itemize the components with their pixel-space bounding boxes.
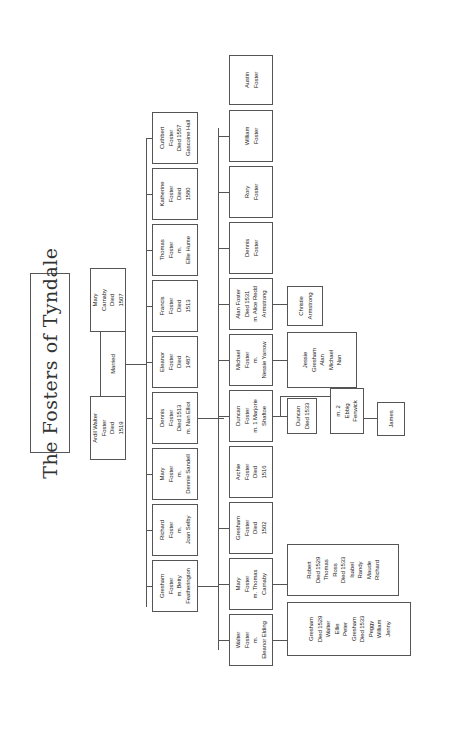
person-line: Foster [251, 239, 260, 257]
connector-line [198, 586, 218, 587]
person-line: Maude [364, 557, 373, 583]
connector-line [273, 360, 287, 361]
person-box-great-grandchild: m. 2 Ebbig Fenwick [330, 388, 364, 434]
person-line: Foster [251, 184, 260, 200]
person-line: Nessie Yarrow [260, 341, 269, 378]
person-line: Michael [326, 348, 335, 372]
person-box-great-grandchild: Duncan Died 1533 [287, 398, 317, 434]
person-box-child: Mary Foster m. Dennie Sandell [152, 448, 198, 500]
person-line: Carnaby [100, 289, 109, 311]
person-line: Foster [100, 413, 109, 443]
person-line: Jessie [301, 348, 310, 372]
connector-line [126, 364, 146, 365]
person-line: Mary [91, 289, 100, 311]
person-line: Foster [243, 621, 252, 659]
person-box-child: Cuthbert Foster Died 1557 Gascoine Hall [152, 112, 198, 164]
person-line: Eleanor Elding [260, 621, 269, 659]
person-line: Foster [243, 399, 252, 433]
person-line: Archie [234, 464, 243, 480]
person-box-grandchild: Mary Foster m. Thomas Carnaby [229, 558, 273, 610]
person-line: Dennie Sandell [184, 454, 193, 493]
person-box-great-grandchild: Jessie Gresham Alan Michael Nan [287, 332, 357, 388]
connector-line [280, 396, 330, 397]
person-line: Joan Selby [184, 516, 193, 545]
person-box-child: Gresham Foster m. Betty Featherington [152, 560, 198, 612]
person-line: m. Betty [175, 568, 184, 604]
person-line: Foster [167, 297, 176, 316]
person-line: Foster [167, 402, 176, 435]
person-line: Died [175, 297, 184, 316]
person-line: m. [251, 621, 260, 659]
person-line: Foster [167, 120, 176, 156]
person-line: Thomas [322, 557, 331, 583]
married-label: Married [109, 354, 118, 374]
connector-line [218, 136, 229, 137]
person-line: m. Thomas [251, 570, 260, 599]
person-box-grandchild: Dennis Foster [229, 222, 273, 274]
person-line: Foster [243, 516, 252, 540]
person-line: Foster [251, 127, 260, 146]
person-line: Foster [243, 464, 252, 480]
connector-line [146, 586, 152, 587]
connector-line [146, 474, 152, 475]
person-line: m. [175, 236, 184, 264]
person-line: Died 1533 [358, 616, 367, 642]
person-line: m. 2 [334, 400, 343, 421]
person-line: William [375, 616, 384, 642]
person-line: Died [108, 413, 117, 443]
person-line: Armstrong [260, 286, 269, 322]
person-line: Gresham [234, 516, 243, 540]
person-line: Died 1557 [175, 120, 184, 156]
person-line: Cuthbert [158, 120, 167, 156]
person-line: Carnaby [260, 570, 269, 599]
person-line: m. Alice Redd [251, 286, 260, 322]
person-box-child: Richard Foster m. Joan Selby [152, 504, 198, 556]
connector-line [280, 396, 281, 416]
person-box-child: Dennis Foster Died 1513 m. Nan Elliot [152, 392, 198, 444]
person-line: Peter [341, 616, 350, 642]
connector-line [273, 304, 287, 305]
person-line: Foster [251, 72, 260, 88]
person-box-great-grandchild: Gresham Died 1529 Walter Ellie Peter Gre… [287, 602, 411, 656]
person-line: Richard [158, 516, 167, 545]
connector-line [146, 306, 152, 307]
connector-line [218, 128, 219, 650]
person-line: Fenwick [351, 400, 360, 421]
person-line: Foster [167, 236, 176, 264]
connector-line [146, 418, 152, 419]
person-line: m. [251, 341, 260, 378]
person-line: Foster [167, 454, 176, 493]
person-line: Alan [318, 348, 327, 372]
person-line: Died [175, 352, 184, 372]
person-line: Foster [167, 352, 176, 372]
person-line: Featherington [184, 568, 193, 604]
connector-line [218, 304, 229, 305]
person-box-grandchild: Archie Foster Died 1516 [229, 446, 273, 498]
person-line: Died 1533 [302, 403, 311, 429]
person-box-grandchild: Austin Foster [229, 55, 273, 105]
person-box-great-grandchild: James [377, 402, 405, 436]
person-line: 1487 [184, 352, 193, 372]
person-box-grandchild: Duncan Foster m. 1 Marjorie Shaftoe [229, 390, 273, 442]
person-line: Walter [324, 616, 333, 642]
person-line: m. 1 Marjorie [251, 399, 260, 433]
person-line: Died [251, 516, 260, 540]
person-box-grandchild: Michael Foster m. Nessie Yarrow [229, 334, 273, 386]
person-line: Gresham [309, 348, 318, 372]
person-line: 1580 [184, 182, 193, 207]
person-line: Walter [234, 621, 243, 659]
person-line: Dennis [158, 402, 167, 435]
person-line: Ross [330, 557, 339, 583]
person-line: Died 1533 [339, 557, 348, 583]
connector-line [146, 250, 152, 251]
person-line: Alan Foster [234, 286, 243, 322]
title-box: The Fosters of Tyndale [30, 273, 70, 453]
person-box-grandchild: William Foster [229, 110, 273, 162]
connector-line [273, 416, 287, 417]
person-line: Nan [335, 348, 344, 372]
person-line: Died 1529 [313, 557, 322, 583]
person-line: Armstrong [305, 293, 314, 320]
connector-line [218, 248, 229, 249]
connector-line [146, 138, 152, 139]
person-line: m. [175, 454, 184, 493]
